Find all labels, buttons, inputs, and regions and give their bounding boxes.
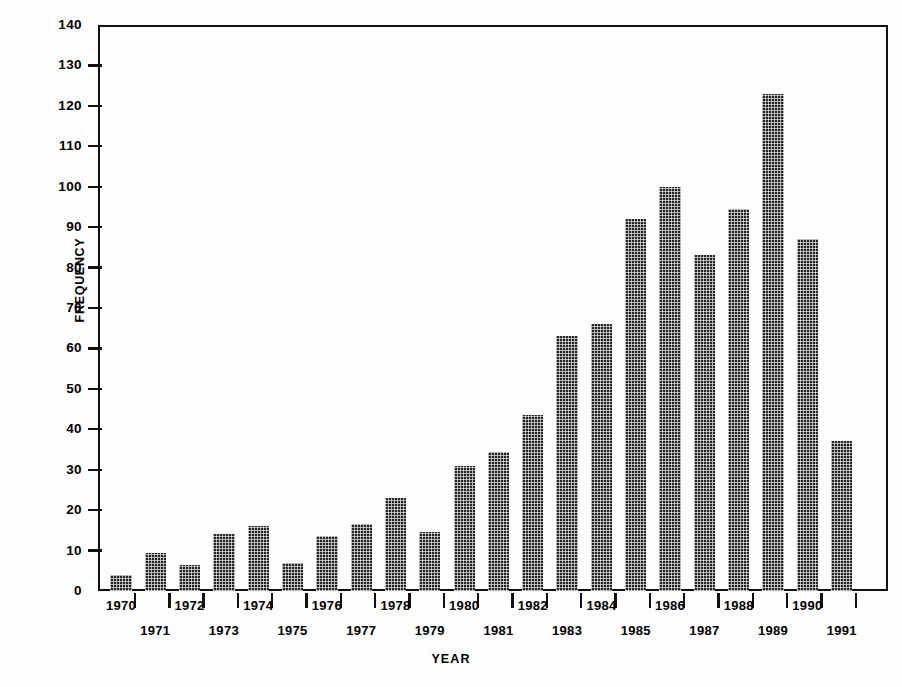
x-axis-label-1987: 1987 [676,623,732,638]
bar-1982 [522,415,543,591]
y-axis-label-50: 50 [36,382,82,396]
bar-1978 [385,498,406,591]
y-axis-tick-90 [88,226,102,228]
y-axis-tick-80 [88,266,102,268]
bars-container [100,25,886,591]
x-axis-label-1977: 1977 [333,623,389,638]
y-axis-tick-100 [88,186,102,188]
bar-1973 [213,534,234,591]
bar-1986 [659,187,680,591]
y-axis-label-40: 40 [36,422,82,436]
y-axis-tick-130 [88,64,102,66]
y-axis-label-130: 130 [36,58,82,72]
y-axis-label-0: 0 [36,584,82,598]
y-axis-label-30: 30 [36,463,82,477]
bar-1970 [110,575,131,591]
y-axis-label-110: 110 [36,139,82,153]
y-axis-label-90: 90 [36,220,82,234]
y-axis-tick-40 [88,428,102,430]
y-axis-tick-110 [88,145,102,147]
bar-1981 [488,452,509,591]
x-axis-label-1981: 1981 [470,623,526,638]
y-axis-tick-60 [88,347,102,349]
y-axis-label-60: 60 [36,341,82,355]
bar-1979 [419,532,440,591]
bar-1988 [728,209,749,591]
bar-1989 [762,94,783,591]
x-axis-label-1970: 1970 [93,598,149,613]
y-axis-label-10: 10 [36,544,82,558]
bar-1991 [831,441,852,591]
y-axis-tick-120 [88,105,102,107]
x-axis-label-1984: 1984 [573,598,629,613]
bar-1980 [454,466,475,591]
x-axis-label-1983: 1983 [539,623,595,638]
bar-1983 [556,336,577,591]
bar-1990 [797,239,818,591]
y-axis-tick-10 [88,549,102,551]
x-axis-tick-labels: 1970197119721973197419751976197719781979… [100,596,900,650]
x-axis-label-1990: 1990 [779,598,835,613]
y-axis-tick-20 [88,509,102,511]
bar-1976 [316,536,337,591]
y-axis-tick-30 [88,469,102,471]
x-axis-label-1986: 1986 [642,598,698,613]
bar-chart-figure: FREQUENCY 010203040506070809010011012013… [0,0,902,687]
bar-1972 [179,565,200,591]
bar-1974 [248,526,269,591]
y-axis-label-100: 100 [36,180,82,194]
x-axis-label-1975: 1975 [265,623,321,638]
bar-1985 [625,219,646,591]
x-axis-label-1989: 1989 [745,623,801,638]
bar-1977 [351,524,372,591]
bar-1987 [694,255,715,591]
x-axis-label-1971: 1971 [127,623,183,638]
x-axis-label-1978: 1978 [368,598,424,613]
y-axis-label-140: 140 [36,18,82,32]
x-axis-label-1973: 1973 [196,623,252,638]
x-axis-label-1988: 1988 [711,598,767,613]
y-axis-label-80: 80 [36,261,82,275]
x-axis-label-1991: 1991 [814,623,870,638]
bar-1984 [591,324,612,591]
x-axis-label-1979: 1979 [402,623,458,638]
x-axis-label-1982: 1982 [505,598,561,613]
bar-1975 [282,563,303,591]
y-axis-tick-70 [88,307,102,309]
bar-1971 [145,553,166,591]
x-axis-label-1976: 1976 [299,598,355,613]
y-axis-tick-labels: 0102030405060708090100110120130140 [20,0,82,687]
y-axis-label-70: 70 [36,301,82,315]
y-axis-label-120: 120 [36,99,82,113]
x-axis-label-1972: 1972 [162,598,218,613]
x-axis-label-1980: 1980 [436,598,492,613]
y-axis-tick-50 [88,388,102,390]
x-axis-label-1985: 1985 [608,623,664,638]
x-axis-title: YEAR [0,652,902,666]
x-axis-label-1974: 1974 [230,598,286,613]
y-axis-label-20: 20 [36,503,82,517]
